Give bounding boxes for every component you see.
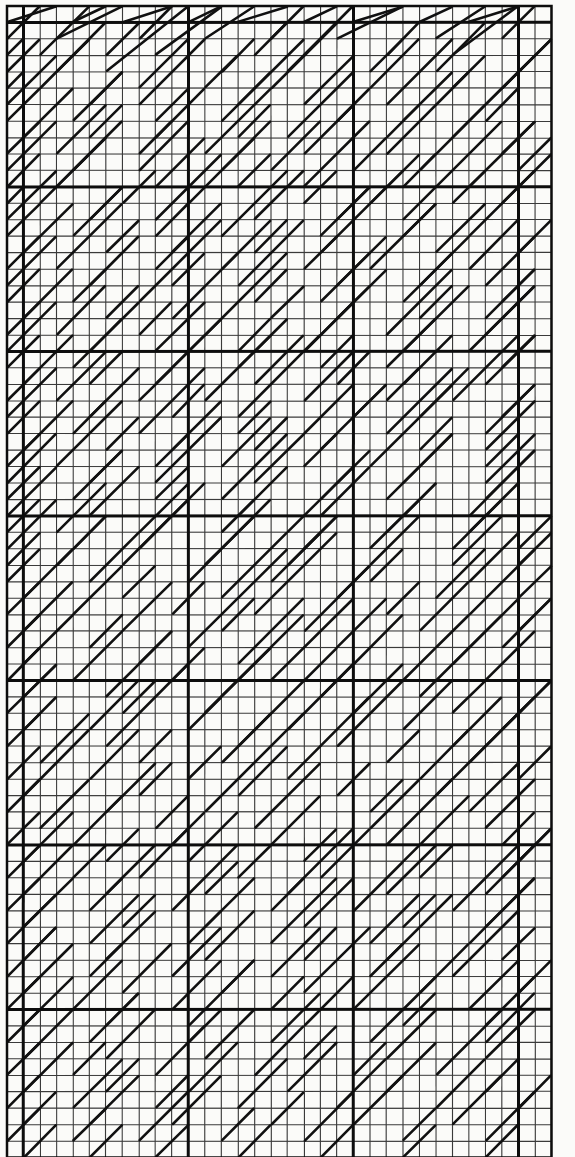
tally-grid-sheet xyxy=(0,0,575,1157)
tally-grid-canvas xyxy=(0,0,575,1157)
